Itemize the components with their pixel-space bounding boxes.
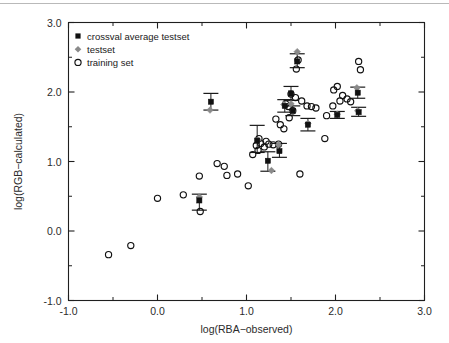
legend-label: crossval average testset xyxy=(87,31,190,42)
data-point-crossval xyxy=(208,99,213,104)
x-tick-label: 1.0 xyxy=(239,305,254,317)
data-point-crossval xyxy=(265,158,270,163)
data-point-training xyxy=(293,66,299,72)
data-point-crossval xyxy=(305,122,310,127)
data-point-training xyxy=(324,113,330,119)
data-point-training xyxy=(297,171,303,177)
legend-entry: crossval average testset xyxy=(75,31,189,42)
data-point-crossval xyxy=(290,108,295,113)
y-tick-label: 3.0 xyxy=(47,17,62,29)
y-tick-label: 1.0 xyxy=(47,156,62,168)
x-tick-label: -1.0 xyxy=(59,305,77,317)
legend-marker-square xyxy=(75,33,80,38)
data-point-training xyxy=(224,172,230,178)
y-tick-label: 0.0 xyxy=(47,225,62,237)
data-point-training xyxy=(299,98,305,104)
data-point-crossval xyxy=(356,110,361,115)
data-point-testset xyxy=(268,167,275,174)
data-point-training xyxy=(322,135,328,141)
x-tick-label: 0.0 xyxy=(150,305,165,317)
legend-marker-circle xyxy=(75,59,81,65)
data-point-crossval xyxy=(255,138,260,143)
data-point-crossval xyxy=(288,91,293,96)
scatter-plot: -1.00.01.02.03.0-1.00.01.02.03.0log(RBA−… xyxy=(0,0,449,343)
data-point-training xyxy=(221,163,227,169)
figure-container: -1.00.01.02.03.0-1.00.01.02.03.0log(RBA−… xyxy=(0,0,449,343)
data-point-crossval xyxy=(197,198,202,203)
data-point-training xyxy=(334,83,340,89)
data-point-training xyxy=(330,103,336,109)
data-point-testset xyxy=(207,107,214,114)
y-axis-title: log(RGB−calculated) xyxy=(12,113,24,210)
data-point-training xyxy=(154,195,160,201)
legend-label: training set xyxy=(87,57,134,68)
data-point-training xyxy=(105,252,111,258)
data-point-training xyxy=(281,126,287,132)
legend-entry: testset xyxy=(75,44,116,55)
data-point-training xyxy=(197,208,203,214)
y-tick-label: -1.0 xyxy=(43,295,61,307)
data-point-crossval xyxy=(355,90,360,95)
data-point-crossval xyxy=(335,112,340,117)
data-point-training xyxy=(331,87,337,93)
legend-marker-diamond xyxy=(75,46,82,53)
x-axis-title: log(RBA−observed) xyxy=(201,323,293,335)
data-point-training xyxy=(357,67,363,73)
legend-label: testset xyxy=(87,44,115,55)
data-point-training xyxy=(273,116,279,122)
data-point-training xyxy=(277,122,283,128)
data-point-training xyxy=(180,192,186,198)
data-point-training xyxy=(235,171,241,177)
data-point-crossval xyxy=(282,103,287,108)
data-point-training xyxy=(356,58,362,64)
data-point-crossval xyxy=(277,148,282,153)
y-tick-label: 2.0 xyxy=(47,86,62,98)
x-tick-label: 3.0 xyxy=(417,305,432,317)
data-point-training xyxy=(196,173,202,179)
data-point-training xyxy=(245,183,251,189)
data-point-crossval xyxy=(295,59,300,64)
legend-entry: training set xyxy=(75,57,134,68)
x-tick-label: 2.0 xyxy=(328,305,343,317)
data-point-training xyxy=(214,160,220,166)
data-point-training xyxy=(128,242,134,248)
